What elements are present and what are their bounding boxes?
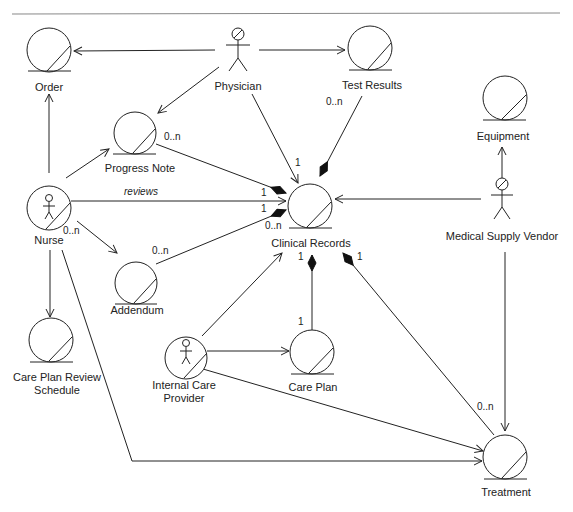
- label-treatment: Treatment: [481, 486, 531, 499]
- entity-nurse-icon[interactable]: [27, 186, 71, 230]
- label-physician: Physician: [214, 80, 261, 93]
- label-clinical-records: Clinical Records: [271, 237, 350, 250]
- entity-clinical-records-icon[interactable]: [288, 184, 332, 228]
- mult-nurse-addendum: 0..n: [63, 225, 80, 236]
- mult-treatment-cr: 1: [357, 251, 363, 262]
- label-internal-care-provider: Internal Care Provider: [152, 379, 216, 405]
- assoc-label-reviews: reviews: [124, 186, 158, 197]
- edge-nurse-progressnote: [66, 149, 109, 178]
- mult-test-results-from: 0..n: [326, 96, 343, 107]
- edge-physician-order: [74, 50, 215, 51]
- mult-care-plan-from: 1: [298, 316, 304, 327]
- edge-icp-clinicalrecords: [202, 253, 282, 336]
- entity-test-results-icon[interactable]: [348, 26, 392, 70]
- label-medical-supply-vendor: Medical Supply Vendor: [446, 230, 559, 243]
- label-test-results: Test Results: [342, 79, 402, 92]
- label-addendum: Addendum: [110, 304, 163, 317]
- label-equipment: Equipment: [477, 130, 530, 143]
- edge-physician-progressnote: [158, 67, 219, 113]
- edge-icp-treatment: [203, 369, 483, 451]
- entity-progress-note-icon[interactable]: [113, 112, 156, 154]
- mult-progress-note-from: 0..n: [164, 131, 181, 142]
- edge-treatment-clinicalrecords: [343, 253, 494, 435]
- mult-addendum-cr: 0..n: [265, 220, 282, 231]
- edge-addendum-clinicalrecords: [156, 210, 286, 264]
- edge-testresults-clinicalrecords: [320, 96, 362, 176]
- entity-treatment-icon[interactable]: [483, 435, 527, 479]
- entity-care-plan-review-schedule-icon[interactable]: [29, 318, 73, 362]
- mult-progress-note-to: 1: [261, 187, 267, 198]
- entity-addendum-icon[interactable]: [115, 262, 157, 304]
- entity-care-plan-icon[interactable]: [290, 330, 334, 374]
- edge-progressnote-clinicalrecords: [156, 144, 286, 193]
- mult-physician-cr: 1: [295, 157, 301, 168]
- label-progress-note: Progress Note: [105, 162, 175, 175]
- label-order: Order: [35, 81, 63, 94]
- label-care-plan: Care Plan: [289, 381, 338, 394]
- entity-order-icon[interactable]: [27, 28, 71, 72]
- uml-diagram-canvas: [0, 0, 573, 512]
- actor-physician-icon[interactable]: [226, 28, 250, 71]
- label-nurse: Nurse: [34, 234, 63, 247]
- mult-treatment-from: 0..n: [477, 401, 494, 412]
- edge-nurse-addendum: [77, 221, 117, 253]
- mult-addendum-to-one: 1: [261, 203, 267, 214]
- actor-medical-supply-vendor-icon[interactable]: [491, 178, 513, 219]
- entity-equipment-icon[interactable]: [483, 76, 527, 120]
- mult-addendum-from: 0..n: [152, 245, 169, 256]
- label-care-plan-review-schedule: Care Plan Review Schedule: [13, 371, 101, 397]
- edge-physician-clinicalrecords: [252, 94, 298, 183]
- entity-internal-care-provider-icon[interactable]: [165, 337, 207, 379]
- mult-care-plan-cr: 1: [298, 251, 304, 262]
- top-rule: [12, 13, 560, 14]
